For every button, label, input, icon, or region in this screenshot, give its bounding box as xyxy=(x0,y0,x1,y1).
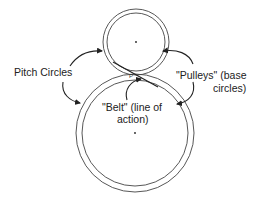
gear-diagram xyxy=(0,0,270,198)
pulleys-label-line1: "Pulleys" (base xyxy=(176,69,247,81)
pitch-arrow-upper xyxy=(70,51,102,66)
pulleys-label-line2: circles) xyxy=(213,82,246,94)
belt-label-line2: action) xyxy=(117,113,149,125)
large-center-dot xyxy=(134,132,136,134)
large-gear xyxy=(76,74,194,192)
line-of-action xyxy=(113,62,158,87)
small-gear xyxy=(103,9,169,75)
pitch-circles-label: Pitch Circles xyxy=(14,66,72,78)
pitch-point-label: P xyxy=(129,73,133,79)
belt-arrow xyxy=(126,79,141,100)
belt-label-line1: "Belt" (line of xyxy=(102,101,162,113)
pitch-arrow-lower xyxy=(63,82,80,103)
small-center-dot xyxy=(135,41,137,43)
pulleys-arrow-lower xyxy=(177,82,194,104)
